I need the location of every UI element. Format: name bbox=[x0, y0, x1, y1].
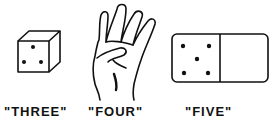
domino-icon bbox=[172, 34, 268, 82]
label-five: "FIVE" bbox=[185, 104, 232, 119]
hand-icon bbox=[93, 5, 155, 101]
label-four: "FOUR" bbox=[88, 104, 143, 119]
label-three: "THREE" bbox=[4, 104, 67, 119]
die-icon bbox=[18, 31, 60, 72]
